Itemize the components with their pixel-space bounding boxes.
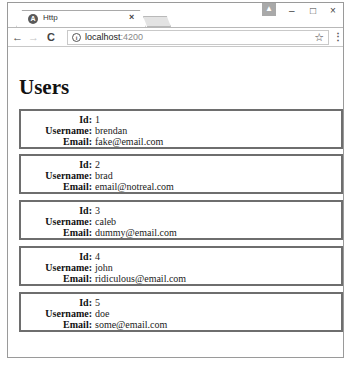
angular-icon: A [28,14,38,24]
id-label: Id: [21,114,92,125]
email-label: Email: [21,227,92,238]
browser-window: A Http × ▲ – □ × ← → C i localhost:4200 … [7,2,344,358]
username-value: john [92,262,113,273]
id-label: Id: [21,297,92,308]
user-card: Id:4 Username:john Email:ridiculous@emai… [19,246,343,286]
maximize-button[interactable]: □ [310,5,316,16]
email-value: email@notreal.com [92,181,174,192]
id-label: Id: [21,251,92,262]
url-host: localhost [85,32,121,42]
username-label: Username: [21,308,92,319]
username-label: Username: [21,216,92,227]
page-content: Users Id:1 Username:brendan Email:fake@e… [8,48,343,357]
close-window-button[interactable]: × [330,5,336,16]
reload-button[interactable]: C [47,31,55,43]
username-label: Username: [21,262,92,273]
id-value: 2 [92,159,100,170]
id-label: Id: [21,159,92,170]
email-value: fake@email.com [92,136,163,147]
user-card: Id:2 Username:brad Email:email@notreal.c… [19,154,343,194]
user-card: Id:1 Username:brendan Email:fake@email.c… [19,109,343,149]
forward-button[interactable]: → [28,31,39,43]
user-card: Id:3 Username:caleb Email:dummy@email.co… [19,200,343,240]
id-label: Id: [21,205,92,216]
id-value: 1 [92,114,100,125]
email-value: dummy@email.com [92,227,177,238]
url-port: :4200 [121,32,144,42]
tab-title[interactable]: Http [43,13,58,22]
username-label: Username: [21,125,92,136]
url-text[interactable]: localhost:4200 [85,32,143,42]
username-value: brendan [92,125,127,136]
username-value: brad [92,170,113,181]
id-value: 4 [92,251,100,262]
profile-icon[interactable]: ▲ [262,3,276,16]
email-value: some@email.com [92,319,167,330]
minimize-button[interactable]: – [289,5,295,16]
email-label: Email: [21,319,92,330]
email-label: Email: [21,136,92,147]
email-value: ridiculous@email.com [92,273,186,284]
new-tab-button[interactable] [143,16,171,27]
email-label: Email: [21,181,92,192]
tab-close-icon[interactable]: × [129,12,134,22]
email-label: Email: [21,273,92,284]
id-value: 5 [92,297,100,308]
id-value: 3 [92,205,100,216]
back-button[interactable]: ← [12,31,23,43]
username-value: doe [92,308,109,319]
info-icon[interactable]: i [72,33,81,42]
page-title: Users [19,75,69,100]
browser-toolbar: ← → C i localhost:4200 ☆ ⋮ [8,27,343,47]
username-value: caleb [92,216,116,227]
bookmark-star-icon[interactable]: ☆ [314,31,324,44]
username-label: Username: [21,170,92,181]
title-bar: A Http × ▲ – □ × [8,3,343,27]
address-bar[interactable]: i localhost:4200 ☆ [67,30,329,45]
user-card: Id:5 Username:doe Email:some@email.com [19,292,343,332]
browser-menu-icon[interactable]: ⋮ [333,31,343,42]
